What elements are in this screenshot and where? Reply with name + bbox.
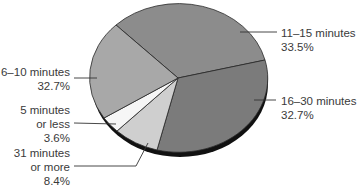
label-16-30-value: 32.7%: [281, 108, 356, 122]
label-5-or-less-line1: 5 minutes: [20, 103, 70, 117]
label-5-or-less-value: 3.6%: [20, 131, 70, 145]
label-16-30-minutes: 16–30 minutes 32.7%: [281, 94, 356, 122]
label-31-minutes-or-more: 31 minutes or more 8.4%: [14, 146, 70, 186]
label-6-10-minutes: 6–10 minutes 32.7%: [1, 65, 70, 93]
label-11-15-minutes: 11–15 minutes 33.5%: [281, 26, 356, 54]
label-11-15-category: 11–15 minutes: [281, 26, 356, 40]
label-11-15-value: 33.5%: [281, 40, 356, 54]
label-31-or-more-line1: 31 minutes: [14, 146, 70, 160]
label-5-or-less-line2: or less: [20, 117, 70, 131]
label-6-10-category: 6–10 minutes: [1, 65, 70, 79]
label-31-or-more-line2: or more: [14, 160, 70, 174]
label-6-10-value: 32.7%: [1, 79, 70, 93]
pie-slices: [90, 4, 268, 153]
label-31-or-more-value: 8.4%: [14, 174, 70, 186]
label-16-30-category: 16–30 minutes: [281, 94, 356, 108]
label-5-minutes-or-less: 5 minutes or less 3.6%: [20, 103, 70, 145]
